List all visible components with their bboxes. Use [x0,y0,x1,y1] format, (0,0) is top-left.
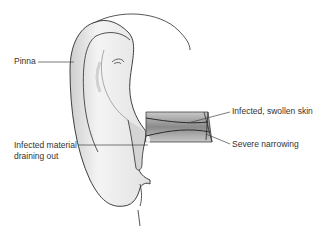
label-infected-material-line2: draining out [14,151,77,162]
label-pinna: Pinna [14,56,36,67]
ear-illustration [0,0,319,238]
ear-canal [146,112,212,142]
label-infected-material-line1: Infected material [14,140,77,151]
label-narrowing: Severe narrowing [232,139,299,150]
pinna-shape [70,20,150,206]
label-swollen-skin: Infected, swollen skin [232,106,313,117]
label-infected-material: Infected material draining out [14,140,77,162]
